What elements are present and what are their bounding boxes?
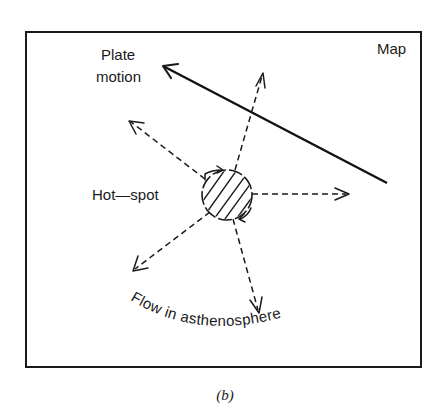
hot-spot (190, 160, 268, 236)
flow-line-northwest (131, 122, 205, 179)
plate-motion-label: Plate motion (96, 46, 141, 85)
plate-motion-label-line2: motion (96, 68, 141, 85)
flow-label: Flow in asthenosphere (129, 288, 283, 329)
flow-line-north (235, 76, 262, 170)
flow-line-south (233, 219, 258, 310)
flow-arrow-east (252, 188, 349, 200)
flow-arrow-south (233, 219, 262, 313)
flow-line-southwest (135, 212, 210, 269)
hot-spot-flow-diagram: Map Plate motion (0, 0, 438, 417)
hot-spot-circle (202, 170, 252, 220)
flow-label-path: Flow in asthenosphere (129, 288, 283, 329)
map-label: Map (377, 40, 406, 57)
figure-caption: (b) (216, 387, 234, 404)
hot-spot-label: Hot—spot (92, 186, 160, 203)
flow-arrow-north (235, 73, 265, 170)
flow-arrow-northwest (129, 121, 205, 179)
flow-arrow-southwest (133, 212, 210, 271)
plate-motion-line (163, 66, 387, 183)
plate-motion-arrow (163, 64, 387, 183)
plate-motion-label-line1: Plate (101, 46, 135, 63)
